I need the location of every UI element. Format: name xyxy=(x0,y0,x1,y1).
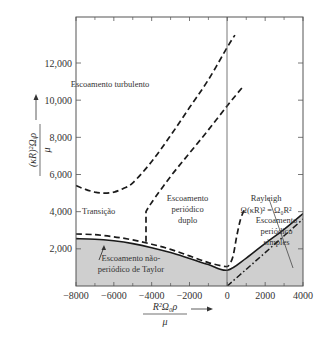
region-annotation: periódico de Taylor xyxy=(98,264,164,274)
y-tick-label: 2,000 xyxy=(50,243,73,254)
chart: −8000−6000−4000−20000200040002,0004,0006… xyxy=(0,0,328,343)
region-annotation: simples xyxy=(264,237,290,247)
y-axis-title: (κR)²Ωᵢρ μ xyxy=(27,94,52,176)
x-tick-label: 4000 xyxy=(293,290,313,301)
region-annotation: Ω(κR)² = Ω₀R² xyxy=(241,205,292,215)
y-tick-label: 10,000 xyxy=(45,95,73,106)
y-tick-label: 4,000 xyxy=(50,206,73,217)
y-tick-label: 12,000 xyxy=(45,58,73,69)
region-annotation: Escoamento não- xyxy=(101,253,160,263)
x-tick-label: −6000 xyxy=(101,290,127,301)
x-axis-title-numerator: R²Ω₀ρ xyxy=(152,301,178,312)
region-annotation: Escoamento xyxy=(167,193,209,203)
x-tick-label: 0 xyxy=(225,290,230,301)
region-annotation: Escoamento turbulento xyxy=(71,79,150,89)
region-annotation: Transição xyxy=(82,206,115,216)
region-annotation: periódico xyxy=(260,226,292,236)
x-tick-label: −8000 xyxy=(63,290,89,301)
y-axis-arrow-icon xyxy=(34,94,39,100)
x-axis-title-denominator: μ xyxy=(161,316,167,327)
region-annotation: periódico xyxy=(172,204,204,214)
x-tick-label: −2000 xyxy=(177,290,203,301)
x-tick-label: 2000 xyxy=(255,290,275,301)
y-tick-label: 8,000 xyxy=(50,132,73,143)
y-tick-label: 6,000 xyxy=(50,169,73,180)
region-annotation: Rayleigh xyxy=(251,193,282,203)
region-annotation: duplo xyxy=(178,215,197,225)
y-axis-title-numerator: (κR)²Ωᵢρ xyxy=(27,133,39,167)
series-turbulent-boundary xyxy=(76,35,235,193)
x-axis-title: R²Ω₀ρ μ xyxy=(143,301,213,327)
y-axis-title-denominator: μ xyxy=(41,147,52,153)
x-axis-arrow-icon xyxy=(207,307,213,312)
x-tick-label: −4000 xyxy=(139,290,165,301)
